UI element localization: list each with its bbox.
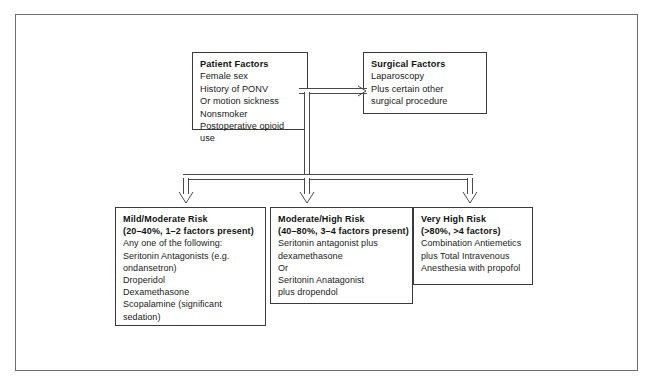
patient-factors-line-4: Postoperative opioid use [200, 120, 300, 145]
arrow-down-icon-left [178, 191, 194, 205]
moderate-high-title: Moderate/High Risk [278, 213, 405, 225]
mild-moderate-title: Mild/Moderate Risk [123, 213, 258, 225]
node-moderate-high-risk: Moderate/High Risk (40–80%, 3–4 factors … [270, 207, 413, 304]
very-high-line-0: Combination Antiemetics [421, 237, 525, 249]
surgical-factors-line-1: Plus certain other [371, 83, 479, 95]
arrow-right-icon-surgical [357, 84, 367, 98]
very-high-subtitle: (>80%, >4 factors) [421, 225, 525, 237]
very-high-title: Very High Risk [421, 213, 525, 225]
arrow-down-icon-right [462, 191, 478, 205]
mild-moderate-line-5: Scopalamine (significant [123, 298, 258, 310]
surgical-factors-line-2: surgical procedure [371, 95, 479, 107]
connector-distribution-bus [183, 174, 473, 180]
patient-factors-line-1: History of PONV [200, 83, 300, 95]
node-surgical-factors: Surgical Factors Laparoscopy Plus certai… [363, 52, 487, 114]
surgical-factors-line-0: Laparoscopy [371, 70, 479, 82]
mild-moderate-line-3: Droperidol [123, 274, 258, 286]
connector-trunk [304, 92, 310, 177]
flowchart-page: Patient Factors Female sex History of PO… [0, 0, 655, 384]
mild-moderate-line-2: ondansetron) [123, 262, 258, 274]
node-patient-factors: Patient Factors Female sex History of PO… [192, 52, 308, 130]
arrow-down-icon-middle [299, 191, 315, 205]
moderate-high-line-0: Seritonin antagonist plus [278, 237, 405, 249]
page-frame [15, 14, 638, 371]
patient-factors-line-3: Nonsmoker [200, 108, 300, 120]
patient-factors-line-2: Or motion sickness [200, 95, 300, 107]
mild-moderate-line-4: Dexamethasone [123, 286, 258, 298]
mild-moderate-line-6: sedation) [123, 311, 258, 323]
moderate-high-subtitle: (40–80%, 3–4 factors present) [278, 225, 405, 237]
node-mild-moderate-risk: Mild/Moderate Risk (20–40%, 1–2 factors … [115, 207, 266, 326]
moderate-high-line-3: Seritonin Anatagonist [278, 274, 405, 286]
node-very-high-risk: Very High Risk (>80%, >4 factors) Combin… [413, 207, 533, 285]
mild-moderate-subtitle: (20–40%, 1–2 factors present) [123, 225, 258, 237]
very-high-line-2: Anesthesia with propofol [421, 262, 525, 274]
mild-moderate-line-0: Any one of the following: [123, 237, 258, 249]
moderate-high-line-2: Or [278, 262, 405, 274]
surgical-factors-title: Surgical Factors [371, 58, 479, 70]
patient-factors-title: Patient Factors [200, 58, 300, 70]
moderate-high-line-1: dexamethasone [278, 250, 405, 262]
mild-moderate-line-1: Seritonin Antagonists (e.g. [123, 250, 258, 262]
very-high-line-1: plus Total Intravenous [421, 250, 525, 262]
moderate-high-line-4: plus dropendol [278, 286, 405, 298]
patient-factors-line-0: Female sex [200, 70, 300, 82]
junction-mask-top [305, 89, 309, 93]
